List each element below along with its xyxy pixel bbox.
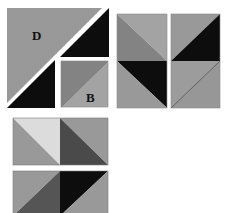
vertical-pair-1 [117, 14, 167, 108]
label-d: D [32, 28, 41, 43]
horizontal-pair-1 [13, 118, 108, 165]
horizontal-pair-2 [13, 171, 108, 213]
label-b: B [86, 90, 95, 105]
vertical-pair-2 [171, 14, 220, 108]
small-square-b: B [61, 61, 108, 107]
quilt-diagram: D B [0, 0, 225, 213]
